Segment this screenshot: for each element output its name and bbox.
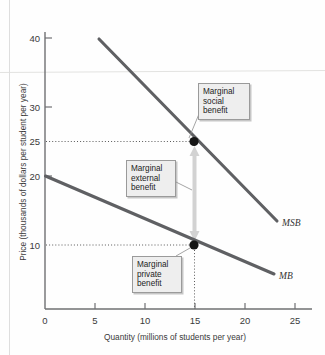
x-tick-15: 15 bbox=[190, 315, 201, 326]
y-tick-40: 40 bbox=[29, 33, 40, 44]
x-tick-20: 20 bbox=[240, 315, 251, 326]
x-tick-10: 10 bbox=[140, 315, 151, 326]
callout-marginal-external-benefit: Marginal external benefit bbox=[126, 160, 176, 197]
callout-marginal-social-benefit: Marginal social benefit bbox=[198, 83, 250, 120]
y-axis-title: Price (thousands of dollars per student … bbox=[18, 83, 28, 261]
curve-label-mb: MB bbox=[278, 271, 293, 281]
leader-line-private bbox=[176, 248, 190, 256]
y-axis-ticks bbox=[45, 38, 52, 176]
y-axis-tick-labels: 40 30 25 20 10 bbox=[29, 33, 40, 251]
external-benefit-arrow bbox=[190, 146, 200, 241]
x-tick-25: 25 bbox=[290, 315, 301, 326]
private-benefit-point bbox=[189, 240, 198, 249]
x-axis-tick-labels: 0 5 10 15 20 25 bbox=[42, 315, 300, 326]
y-tick-20: 20 bbox=[29, 171, 40, 182]
leader-line-external bbox=[176, 182, 192, 190]
social-benefit-point bbox=[189, 137, 198, 146]
y-tick-25: 25 bbox=[29, 136, 40, 147]
callout-marginal-private-benefit: Marginal private benefit bbox=[132, 256, 182, 293]
x-tick-0: 0 bbox=[42, 315, 47, 326]
scan-artifact-line bbox=[0, 71, 325, 73]
curve-label-msb: MSB bbox=[281, 218, 301, 228]
x-axis-title: Quantity (millions of students per year) bbox=[104, 332, 246, 342]
x-tick-5: 5 bbox=[92, 315, 97, 326]
y-tick-10: 10 bbox=[29, 240, 40, 251]
chart-figure: 40 30 25 20 10 0 5 10 15 20 25 Quantity … bbox=[0, 0, 325, 355]
y-tick-30: 30 bbox=[29, 102, 40, 113]
